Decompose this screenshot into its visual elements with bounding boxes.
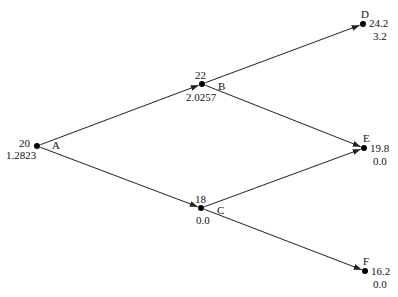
node-d-dot bbox=[360, 21, 366, 27]
node-f-name: F bbox=[363, 255, 369, 267]
node-c-name: C bbox=[217, 204, 224, 216]
node-c-dot bbox=[198, 205, 204, 211]
node-b-price: 22 bbox=[195, 69, 206, 81]
node-d-value: 3.2 bbox=[373, 30, 387, 42]
node-c-value: 0.0 bbox=[196, 214, 210, 226]
tree-edges bbox=[40, 25, 361, 270]
node-e-dot bbox=[361, 145, 367, 151]
node-f-value: 0.0 bbox=[373, 278, 387, 290]
node-d-name: D bbox=[361, 8, 369, 20]
node-d-price: 24.2 bbox=[369, 17, 388, 29]
edge-b-e bbox=[205, 85, 360, 146]
edge-c-e bbox=[204, 149, 360, 207]
tree-nodes bbox=[34, 21, 368, 274]
node-b-name: B bbox=[218, 80, 225, 92]
node-f-price: 16.2 bbox=[371, 265, 390, 277]
node-e-name: E bbox=[363, 132, 370, 144]
edge-c-f bbox=[204, 209, 361, 269]
node-f-dot bbox=[362, 268, 368, 274]
node-a-name: A bbox=[52, 139, 60, 151]
node-a-value: 1.2823 bbox=[6, 149, 36, 161]
edge-b-d bbox=[205, 25, 359, 83]
node-b-value: 2.0257 bbox=[186, 91, 216, 103]
node-c-price: 18 bbox=[195, 193, 206, 205]
node-e-value: 0.0 bbox=[373, 155, 387, 167]
node-a-price: 20 bbox=[19, 137, 30, 149]
node-e-price: 19.8 bbox=[370, 142, 389, 154]
edge-a-c bbox=[40, 147, 197, 207]
edge-a-b bbox=[40, 85, 198, 145]
node-b-dot bbox=[199, 81, 205, 87]
